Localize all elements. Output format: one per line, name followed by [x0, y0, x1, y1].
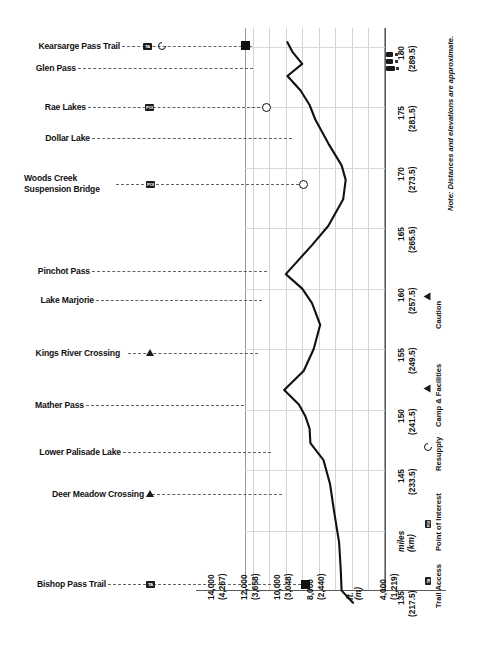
elev-tick-12000: 12,000: [239, 574, 249, 600]
elev-tick-8000-m: (2,440): [316, 573, 326, 600]
mile-tick-155: 155: [396, 348, 406, 362]
legend-label-camp-facilities: Camp & Facilities: [434, 364, 443, 427]
gridline-elev-10000: [319, 28, 320, 590]
leader-woods-creek: [116, 184, 304, 185]
waypoint-label-lake-marjorie: Lake Marjorie: [8, 295, 94, 306]
elevation-unit-m-text: (m): [353, 587, 363, 600]
leader-lake-marjorie: [96, 300, 262, 301]
legend-item-camp-facilities[interactable]: Camp & Facilities: [434, 364, 443, 427]
legend-item-caution[interactable]: Caution: [434, 301, 443, 329]
mile-tick-145-km-text: (233.5): [407, 468, 417, 495]
mile-tick-165-km: (265.5): [407, 226, 417, 253]
leader-pinchot-pass: [92, 271, 267, 272]
elev-tick-14000-m: (4,267): [217, 573, 227, 600]
mile-tick-170-km-text: (273.5): [407, 166, 417, 193]
caution-icon-deer-meadow: [146, 490, 154, 497]
waypoint-label-deer-meadow-crossing: Deer Meadow Crossing: [8, 489, 144, 500]
elev-tick-4000: 4,000: [378, 579, 388, 600]
legend-resupply-icon: [424, 443, 432, 451]
waypoint-label-pinchot-pass: Pinchot Pass: [8, 266, 90, 277]
mile-tick-160-km: (257.5): [407, 287, 417, 314]
legend-item-trail-access[interactable]: Trail Access: [434, 564, 443, 608]
gridline-elev-14000: [253, 28, 254, 590]
legend-label-resupply: Resupply: [434, 437, 443, 471]
gridline-mile-145: [245, 470, 385, 471]
legend-item-resupply[interactable]: Resupply: [434, 437, 443, 471]
mile-tick-145-km: (233.5): [407, 468, 417, 495]
mile-tick-170-mi: 170: [396, 167, 406, 181]
elev-tick-12000-ft: 12,000: [239, 574, 249, 600]
elev-tick-14000-m-text: (4,267): [217, 573, 227, 600]
waypoint-label-lower-palisade-lake: Lower Palisade Lake: [8, 447, 121, 458]
marker-rae-lakes: [262, 103, 271, 112]
mile-tick-145-mi: 145: [396, 469, 406, 483]
elev-tick-10000-ft: 10,000: [272, 574, 282, 600]
gridline-elev-12000: [286, 28, 287, 590]
mile-tick-160-km-text: (257.5): [407, 287, 417, 314]
mile-tick-165: 165: [396, 227, 406, 241]
waypoint-label-dollar-lake: Dollar Lake: [8, 133, 90, 144]
leader-deer-meadow-crossing: [152, 494, 282, 495]
leader-lower-palisade-lake: [123, 452, 271, 453]
legend-label-point-of-interest: Point of Interest: [434, 493, 443, 551]
mile-tick-135-km: (217.5): [407, 590, 417, 617]
legend-point-of-interest-badge-icon: POI: [425, 520, 431, 528]
marker-kearsarge-pass-trail: [241, 41, 250, 50]
gridline-mile-160: [245, 289, 385, 290]
mini-legend-dot-3: [396, 67, 399, 70]
trail-access-badge-icon-bishop: TA: [146, 581, 155, 588]
mini-legend-dot-1: [395, 53, 398, 56]
leader-kearsarge-pass-trail: [122, 46, 252, 47]
mile-tick-180-km: (289.5): [407, 45, 417, 72]
gridline-elev-8000: [352, 28, 353, 590]
mini-legend-badge-1: [386, 52, 393, 57]
mile-tick-165-mi: 165: [396, 227, 406, 241]
elevation-unit-label-m: (m): [353, 587, 363, 600]
legend-label-caution: Caution: [434, 301, 443, 329]
elev-tick-8000-ft: 8,000: [305, 579, 315, 600]
mile-tick-170: 170: [396, 167, 406, 181]
gridline-mile-140: [245, 531, 385, 532]
mile-tick-155-km: (249.5): [407, 347, 417, 374]
gridline-elev-11000: [302, 28, 303, 590]
leader-glen-pass: [78, 68, 253, 69]
waypoint-label-glen-pass: Glen Pass: [8, 63, 76, 74]
gridline-elev-13000: [269, 28, 270, 590]
elevation-profile-line: [0, 0, 477, 672]
mile-tick-135-mi: 135: [396, 591, 406, 605]
distance-unit-miles-text: miles: [396, 531, 406, 552]
mini-legend-badge-2: [386, 59, 393, 64]
mile-tick-175-km: (281.5): [407, 105, 417, 132]
leader-dollar-lake: [92, 138, 292, 139]
mile-tick-155-km-text: (249.5): [407, 347, 417, 374]
leader-mather-pass: [86, 405, 244, 406]
trail-access-badge-icon: TA: [143, 43, 152, 50]
gridline-mile-165: [245, 228, 385, 229]
waypoint-label-rae-lakes: Rae Lakes: [8, 102, 86, 113]
gridline-elev-6000: [368, 28, 369, 590]
mile-tick-135-km-text: (217.5): [407, 590, 417, 617]
legend-item-point-of-interest[interactable]: Point of Interest: [434, 493, 443, 551]
waypoint-label-bishop-pass-trail: Bishop Pass Trail: [8, 579, 106, 590]
mile-tick-170-km: (273.5): [407, 166, 417, 193]
mini-legend-block: [386, 52, 400, 78]
elev-tick-10000-m: (3,048): [283, 573, 293, 600]
elev-tick-14000: 14,000: [206, 574, 216, 600]
legend-caution-icon: [424, 293, 431, 301]
distance-unit-km-text: (km): [406, 534, 416, 552]
gridline-elev-9000: [335, 28, 336, 590]
elev-tick-8000-m-text: (2,440): [316, 573, 326, 600]
elev-tick-12000-m: (3,658): [250, 573, 260, 600]
mile-tick-150-km: (241.5): [407, 408, 417, 435]
elev-tick-10000: 10,000: [272, 574, 282, 600]
mini-legend-dot-2: [395, 60, 398, 63]
elev-tick-8000: 8,000: [305, 579, 315, 600]
leader-rae-lakes: [88, 107, 270, 108]
elev-tick-4000-ft: 4,000: [378, 579, 388, 600]
point-of-interest-badge-icon: POI: [145, 104, 154, 111]
mile-tick-150-km-text: (241.5): [407, 408, 417, 435]
waypoint-label-woods-creek-suspension-bridge: Woods Creek Suspension Bridge: [8, 173, 128, 194]
mile-tick-180-km-text: (289.5): [407, 45, 417, 72]
waypoint-label-kings-river-crossing: Kings River Crossing: [8, 348, 120, 359]
waypoint-label-kearsarge-pass-trail: Kearsarge Pass Trail: [8, 41, 120, 52]
